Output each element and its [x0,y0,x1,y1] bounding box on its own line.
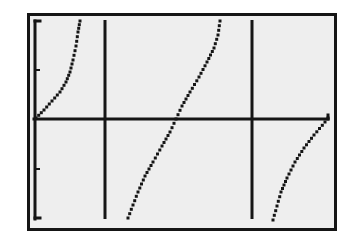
tan-branch [35,20,82,120]
graph-plot [0,0,361,238]
tan-branch [272,117,330,222]
